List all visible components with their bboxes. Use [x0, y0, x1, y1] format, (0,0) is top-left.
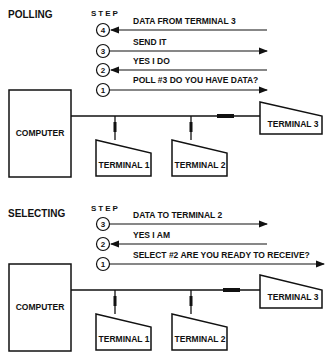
- step-label: DATA FROM TERMINAL 3: [133, 16, 236, 26]
- terminal-1-label: TERMINAL 1: [99, 334, 150, 344]
- modem-icon: [190, 296, 193, 306]
- terminal-2-label: TERMINAL 2: [175, 334, 226, 344]
- selecting-step-1: 1 SELECT #2 ARE YOU READY TO RECEIVE?: [97, 250, 325, 271]
- modem-icon: [114, 296, 117, 306]
- terminal-2-shape: [172, 140, 227, 176]
- svg-text:3: 3: [101, 47, 106, 56]
- polling-step-2: 2 YES I DO: [97, 56, 268, 77]
- svg-text:4: 4: [101, 26, 106, 35]
- terminal-3-shape: [260, 102, 322, 134]
- selecting-step-label: STEP: [91, 204, 120, 213]
- svg-text:2: 2: [101, 66, 106, 75]
- modem-icon: [217, 114, 234, 118]
- step-label: YES I AM: [133, 230, 170, 240]
- svg-text:1: 1: [101, 86, 106, 95]
- computer-label: COMPUTER: [16, 128, 65, 138]
- selecting-section: SELECTING STEP 3 DATA TO TERMINAL 2 2 YE…: [8, 204, 324, 351]
- terminal-3-label: TERMINAL 3: [268, 292, 319, 302]
- polling-step-4: 4 DATA FROM TERMINAL 3: [97, 16, 268, 37]
- modem-icon: [190, 122, 193, 132]
- svg-text:2: 2: [101, 240, 106, 249]
- terminal-1-shape: [96, 140, 151, 176]
- modem-icon: [223, 288, 240, 292]
- terminal-1-label: TERMINAL 1: [99, 160, 150, 170]
- polling-title: POLLING: [8, 9, 53, 20]
- step-label: SELECT #2 ARE YOU READY TO RECEIVE?: [133, 250, 310, 260]
- step-label: YES I DO: [133, 56, 170, 66]
- terminal-1-shape: [96, 314, 151, 350]
- selecting-title: SELECTING: [8, 208, 65, 219]
- modem-icon: [114, 122, 117, 132]
- step-label: SEND IT: [133, 37, 167, 47]
- polling-step-3: 3 SEND IT: [97, 37, 268, 58]
- polling-step-label: STEP: [91, 9, 120, 18]
- computer-label: COMPUTER: [16, 302, 65, 312]
- polling-section: POLLING STEP 4 DATA FROM TERMINAL 3 3 SE…: [8, 9, 322, 177]
- polling-selecting-diagram: POLLING STEP 4 DATA FROM TERMINAL 3 3 SE…: [0, 0, 332, 360]
- step-label: POLL #3 DO YOU HAVE DATA?: [133, 75, 258, 85]
- terminal-3-label: TERMINAL 3: [268, 119, 319, 129]
- terminal-2-shape: [172, 314, 227, 350]
- selecting-step-3: 3 DATA TO TERMINAL 2: [97, 210, 268, 231]
- selecting-step-2: 2 YES I AM: [97, 230, 268, 251]
- svg-text:1: 1: [101, 260, 106, 269]
- svg-text:3: 3: [101, 220, 106, 229]
- step-label: DATA TO TERMINAL 2: [133, 210, 223, 220]
- polling-step-1: 1 POLL #3 DO YOU HAVE DATA?: [97, 75, 268, 97]
- terminal-2-label: TERMINAL 2: [175, 160, 226, 170]
